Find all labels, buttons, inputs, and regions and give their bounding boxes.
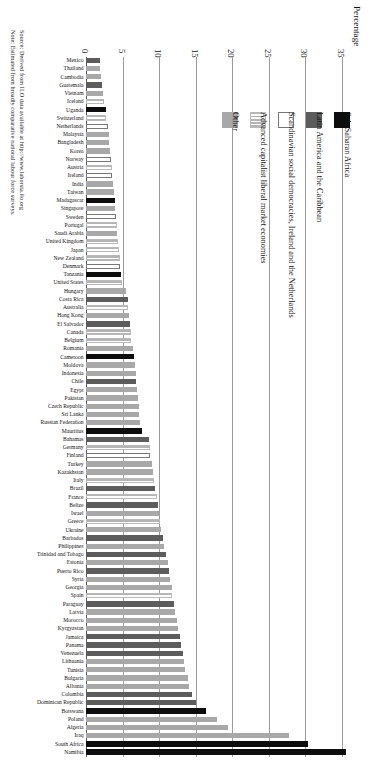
bar-row: Sri Lanka	[86, 411, 353, 419]
bar-row: United Kingdom	[86, 238, 353, 246]
bar-row: Vietnam	[86, 90, 353, 98]
bar	[86, 552, 166, 557]
bar	[86, 115, 106, 120]
bar-label: Lithuania	[62, 659, 83, 665]
bar-row: United States	[86, 279, 353, 287]
bar-label: Greece	[68, 519, 84, 525]
bar	[86, 157, 111, 162]
bar-label: Belgium	[64, 338, 83, 344]
bar-label: Korea	[70, 149, 84, 155]
bar	[86, 231, 117, 236]
bar-label: Jamaica	[65, 635, 83, 641]
bar-label: Denmark	[63, 264, 84, 270]
bar-row: Namibia	[86, 749, 353, 757]
bar	[86, 379, 136, 384]
bar-row: Kyrgyzstan	[86, 625, 353, 633]
bar	[86, 107, 106, 112]
bar-row: Jamaica	[86, 633, 353, 641]
legend-item-adv[interactable]: Advanced capitalist liberal market econo…	[250, 112, 266, 128]
bar	[86, 478, 154, 483]
bar-label: Pakistan	[65, 396, 84, 402]
bar	[86, 395, 138, 400]
bar-row: Madagascar	[86, 197, 353, 205]
bar-label: Austria	[67, 165, 83, 171]
bar-label: Namibia	[64, 750, 83, 756]
legend-item-other[interactable]: Other	[222, 112, 238, 128]
bar	[86, 280, 122, 285]
bar-row: Norway	[86, 156, 353, 164]
bar-label: Mauritius	[62, 429, 84, 435]
bar-row: Colombia	[86, 691, 353, 699]
bar-label: Brazil	[70, 487, 84, 493]
bar-row: Romania	[86, 345, 353, 353]
bar-label: Netherlands	[56, 124, 83, 130]
bar-label: Sri Lanka	[62, 412, 84, 418]
bar-row: Taiwan	[86, 189, 353, 197]
bar	[86, 420, 140, 425]
bar-row: Barbados	[86, 535, 353, 543]
bar	[86, 272, 121, 277]
bar-label: Tanzania	[63, 272, 83, 278]
bar-label: Italy	[73, 478, 83, 484]
bar	[86, 198, 115, 203]
bar-label: Ukraine	[65, 528, 83, 534]
bar-label: Kyrgyzstan	[58, 627, 84, 633]
bar	[86, 354, 134, 359]
bar-row: Germany	[86, 444, 353, 452]
note-line: Note: Estimated from broadly comparative…	[8, 30, 17, 320]
bar-row: Panama	[86, 642, 353, 650]
bar	[86, 535, 163, 540]
x-axis-title: Percentage	[352, 6, 362, 46]
bar-row: Chile	[86, 378, 353, 386]
bar-label: Taiwan	[67, 190, 83, 196]
plot-area: 05101520253035MexicoThailandCambodiaGuat…	[86, 57, 353, 757]
bar-label: Costa Rica	[59, 297, 83, 303]
bar	[86, 74, 101, 79]
bar	[86, 733, 289, 738]
bar-row: New Zealand	[86, 255, 353, 263]
bar-row: Venezuela	[86, 650, 353, 658]
bar-row: Malaysia	[86, 131, 353, 139]
bar-label: Belize	[69, 503, 83, 509]
bar	[86, 222, 117, 227]
bar	[86, 651, 183, 656]
bar-label: Finland	[66, 454, 83, 460]
bar-row: Bahamas	[86, 436, 353, 444]
bar	[86, 288, 126, 293]
bar-row: Tanzania	[86, 271, 353, 279]
bar-label: Georgia	[66, 585, 84, 591]
bar-label: United States	[54, 281, 84, 287]
bar-label: Kazakhstan	[57, 470, 83, 476]
bar-label: Egypt	[70, 388, 83, 394]
bar-row: Bangladesh	[86, 139, 353, 147]
bar	[86, 124, 108, 129]
bar-row: Costa Rica	[86, 296, 353, 304]
bar-label: Romania	[63, 347, 83, 353]
legend-item-ssa[interactable]: Sub-Saharan Africa	[334, 112, 350, 128]
bar	[86, 642, 181, 647]
bar-row: Denmark	[86, 263, 353, 271]
bar-label: Norway	[65, 157, 83, 163]
bar-row: Mexico	[86, 57, 353, 65]
bar	[86, 255, 120, 260]
bar-label: Dominican Republic	[37, 701, 83, 707]
bar-label: Morocco	[63, 618, 83, 624]
bar-row: Egypt	[86, 386, 353, 394]
bar-row: Japan	[86, 246, 353, 254]
bar-row: Albania	[86, 683, 353, 691]
x-tick-label-5: 5	[117, 49, 127, 53]
legend-item-latam[interactable]: Latin America and the Caribbean	[306, 112, 322, 128]
bar-row: Italy	[86, 477, 353, 485]
bar	[86, 568, 169, 573]
bar-row: Cambodia	[86, 73, 353, 81]
bar-label: Vietnam	[65, 91, 84, 97]
bar-label: Syria	[72, 577, 84, 583]
bar	[86, 667, 185, 672]
bar-row: Belize	[86, 502, 353, 510]
bar-label: Indonesia	[62, 371, 84, 377]
bar	[86, 453, 150, 458]
bar-label: United Kingdom	[46, 239, 84, 245]
legend-item-scand[interactable]: Scandinavian social democracies, Ireland…	[278, 112, 294, 128]
bar-label: Germany	[63, 445, 84, 451]
bar-row: Dominican Republic	[86, 699, 353, 707]
